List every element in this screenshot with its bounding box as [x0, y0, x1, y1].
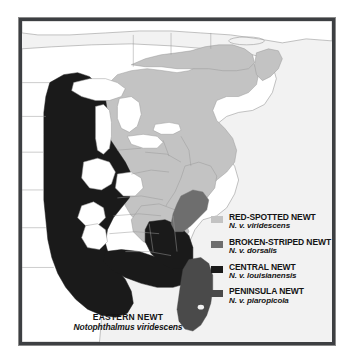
map-frame: RED-SPOTTED NEWT N. v. viridescens BROKE… — [19, 18, 335, 345]
legend-scientific-name-broken-striped: N. v. dorsalis — [229, 247, 331, 256]
lake-ontario — [153, 122, 181, 134]
legend-scientific-name-central: N. v. louisianensis — [229, 272, 296, 281]
legend-swatch-red-spotted — [211, 216, 223, 223]
legend-item-central: CENTRAL NEWT N. v. louisianensis — [211, 263, 331, 281]
lake-michigan — [96, 104, 112, 154]
legend-item-broken-striped: BROKEN-STRIPED NEWT N. v. dorsalis — [211, 238, 331, 256]
legend-label-red-spotted: RED-SPOTTED NEWT N. v. viridescens — [229, 213, 316, 231]
legend-item-red-spotted: RED-SPOTTED NEWT N. v. viridescens — [211, 213, 331, 231]
legend-scientific-name-peninsula: N. v. piaropicola — [229, 297, 304, 306]
map-legend: RED-SPOTTED NEWT N. v. viridescens BROKE… — [211, 213, 331, 312]
legend-item-peninsula: PENINSULA NEWT N. v. piaropicola — [211, 287, 331, 305]
map-title-block: EASTERN NEWT Notophthalmus viridescens — [58, 313, 198, 332]
legend-label-broken-striped: BROKEN-STRIPED NEWT N. v. dorsalis — [229, 238, 331, 256]
legend-label-central: CENTRAL NEWT N. v. louisianensis — [229, 263, 296, 281]
legend-swatch-central — [211, 266, 223, 273]
legend-swatch-peninsula — [211, 290, 223, 297]
range-map-figure: RED-SPOTTED NEWT N. v. viridescens BROKE… — [18, 17, 336, 346]
lake-okeechobee — [198, 305, 204, 310]
legend-scientific-name-red-spotted: N. v. viridescens — [229, 222, 316, 231]
legend-swatch-broken-striped — [211, 241, 223, 248]
legend-label-peninsula: PENINSULA NEWT N. v. piaropicola — [229, 287, 304, 305]
species-scientific-name: Notophthalmus viridescens — [58, 323, 198, 333]
